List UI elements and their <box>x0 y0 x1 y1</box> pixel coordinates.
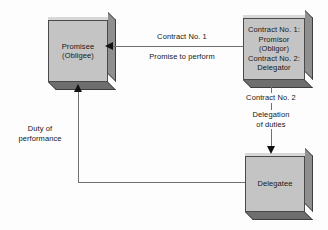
connector-duty-vertical-line <box>78 90 79 182</box>
node-delegatee: Delegatee <box>245 156 305 212</box>
delegatee-box-right-face <box>305 148 313 212</box>
delegatee-label: Delegatee <box>255 179 294 189</box>
arrow-down-icon-contract-2 <box>267 146 275 154</box>
promisor-box-right-face <box>305 10 313 80</box>
promisee-label: Promisee (Obligee) <box>60 42 96 61</box>
connector-duty-label: Duty of performance <box>8 124 72 143</box>
delegation-diagram: Promisee (Obligee) Contract No. 1: Promi… <box>0 0 328 230</box>
delegatee-box-bottom-face <box>245 212 313 220</box>
connector-contract-2-label-top: Contract No. 2 <box>228 93 314 103</box>
delegatee-box-front-face: Delegatee <box>245 156 305 212</box>
connector-duty-horizontal-line <box>78 182 245 183</box>
promisor-box-front-face: Contract No. 1: Promisor (Obligor) Contr… <box>243 18 305 80</box>
promisee-box-front-face: Promisee (Obligee) <box>48 20 108 82</box>
arrow-up-icon-duty <box>74 84 82 92</box>
promisee-box-bottom-face <box>48 82 116 90</box>
node-promisor-delegator: Contract No. 1: Promisor (Obligor) Contr… <box>243 18 305 80</box>
node-promisee: Promisee (Obligee) <box>48 20 108 82</box>
connector-contract-1-label-above: Contract No. 1 <box>140 32 224 42</box>
promisor-box-bottom-face <box>243 80 313 88</box>
connector-contract-2-label-bottom: Delegation of duties <box>232 110 310 129</box>
connector-contract-1-line <box>110 46 244 47</box>
arrow-left-icon-contract-1 <box>105 42 113 50</box>
connector-contract-1-label-below: Promise to perform <box>134 52 230 62</box>
promisor-label: Contract No. 1: Promisor (Obligor) Contr… <box>246 25 302 73</box>
